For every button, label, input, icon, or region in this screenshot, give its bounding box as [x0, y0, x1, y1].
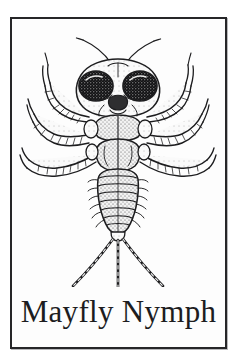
- mayfly-nymph-drawing: [12, 19, 225, 287]
- page-title: Mayfly Nymph: [12, 281, 225, 341]
- three-caudal-filaments: [73, 232, 163, 287]
- mayfly-nymph-illustration: [12, 19, 225, 287]
- illustration-card: Mayfly Nymph: [0, 0, 244, 361]
- segmented-abdomen: [98, 169, 139, 234]
- card-frame: Mayfly Nymph: [10, 17, 227, 349]
